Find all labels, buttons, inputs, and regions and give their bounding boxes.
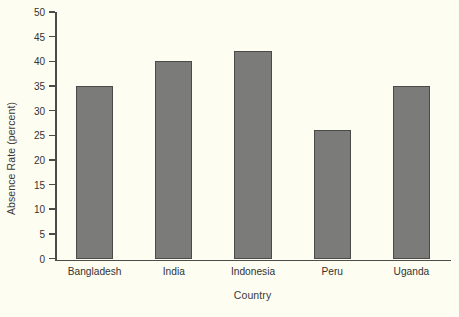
bar: [234, 51, 271, 258]
y-axis-tick-label: 50: [34, 7, 45, 18]
x-axis-tick-label: Uganda: [372, 266, 451, 277]
y-axis-tick: 35: [49, 85, 55, 87]
y-axis-tick-label: 15: [34, 179, 45, 190]
bar: [76, 86, 113, 259]
plot-area: 05101520253035404550 BangladeshIndiaIndo…: [55, 12, 451, 260]
y-axis-tick: 50: [49, 11, 55, 13]
y-axis-title: Absence Rate (percent): [0, 0, 22, 317]
x-axis-tick-label: Bangladesh: [55, 266, 134, 277]
y-axis-tick-label: 0: [39, 253, 45, 264]
y-axis-tick: 20: [49, 159, 55, 161]
y-axis-tick: 40: [49, 61, 55, 63]
x-axis-tick-label: India: [134, 266, 213, 277]
y-axis-tick: 5: [49, 233, 55, 235]
y-axis-tick-label: 30: [34, 105, 45, 116]
x-axis-line: [55, 260, 451, 262]
y-axis-tick-label: 25: [34, 130, 45, 141]
bar: [314, 130, 351, 258]
y-axis-tick: 15: [49, 184, 55, 186]
y-axis-line: [55, 12, 57, 261]
y-axis-tick-label: 40: [34, 56, 45, 67]
bar-chart: Absence Rate (percent) Country 051015202…: [0, 0, 459, 317]
y-axis-tick-label: 20: [34, 154, 45, 165]
bar: [155, 61, 192, 258]
y-axis-tick: 10: [49, 208, 55, 210]
y-axis-tick: 30: [49, 110, 55, 112]
x-axis-title: Country: [55, 289, 450, 301]
y-axis-tick-label: 35: [34, 80, 45, 91]
y-axis-tick-label: 5: [39, 228, 45, 239]
y-axis-tick-label: 10: [34, 204, 45, 215]
x-axis-tick-label: Indonesia: [213, 266, 292, 277]
y-axis-tick: 0: [49, 258, 55, 260]
y-axis-tick: 45: [49, 36, 55, 38]
x-axis-tick-label: Peru: [293, 266, 372, 277]
y-axis-tick: 25: [49, 135, 55, 137]
y-axis-tick-label: 45: [34, 31, 45, 42]
bar: [393, 86, 430, 259]
